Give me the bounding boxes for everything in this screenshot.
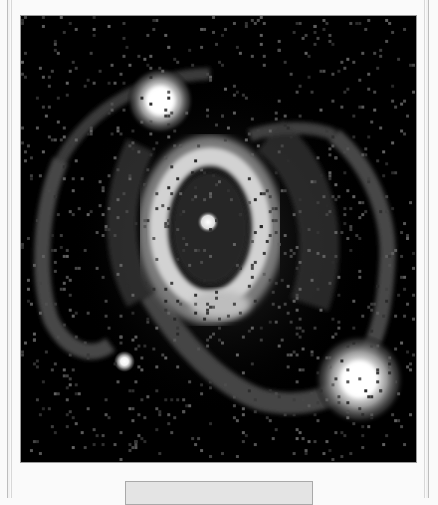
nebula-photo [20,15,417,463]
bright-star-top-left [126,67,194,135]
small-star-bottom-left [114,351,136,373]
bottom-button[interactable] [125,481,313,505]
nebula-image [21,16,416,462]
